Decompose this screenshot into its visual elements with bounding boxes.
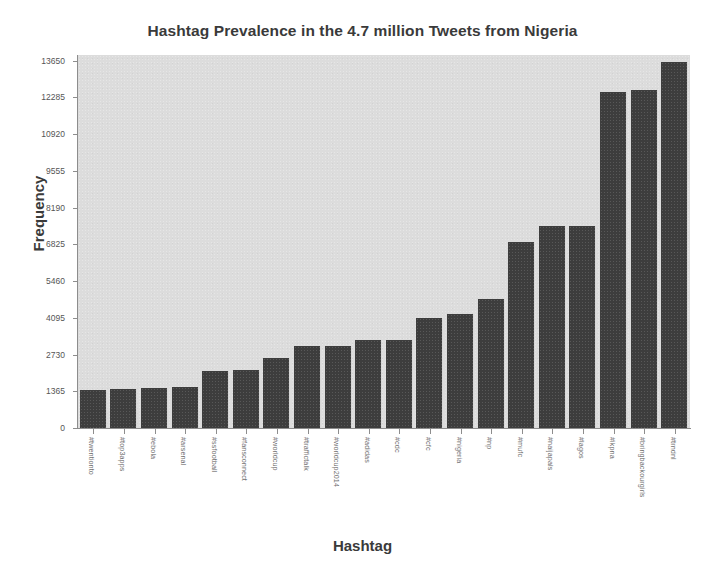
x-tick-mark — [185, 429, 186, 434]
y-tick-mark — [73, 355, 78, 356]
x-tick-label: #ssfootball — [210, 437, 219, 472]
x-tick-label: #worldcup2014 — [332, 437, 341, 487]
x-tick-label: #ebola — [149, 437, 158, 459]
bar — [569, 226, 596, 428]
x-axis-line — [77, 428, 691, 429]
x-tick-label: #trndnl — [669, 437, 678, 460]
y-tick-label: 1365 — [5, 386, 65, 396]
x-tick-mark — [552, 429, 553, 434]
bar — [539, 226, 566, 428]
bar — [447, 314, 474, 428]
y-tick-label: 4095 — [5, 313, 65, 323]
y-tick-mark — [73, 318, 78, 319]
x-tick-label: #worldcup — [271, 437, 280, 471]
y-tick-mark — [73, 244, 78, 245]
bar — [661, 62, 688, 428]
y-tick-label: 8190 — [5, 203, 65, 213]
y-tick-label: 2730 — [5, 350, 65, 360]
bar-series — [78, 55, 690, 428]
bar — [386, 340, 413, 428]
bar — [141, 388, 168, 428]
x-tick-mark — [399, 429, 400, 434]
bar — [325, 346, 352, 428]
x-tick-mark — [461, 429, 462, 434]
x-axis-title: Hashtag — [0, 537, 725, 554]
y-tick-mark — [73, 281, 78, 282]
x-tick-mark — [277, 429, 278, 434]
bar — [478, 299, 505, 428]
x-tick-label: #naijapals — [546, 437, 555, 470]
y-tick-label: 12285 — [5, 92, 65, 102]
x-tick-mark — [491, 429, 492, 434]
x-tick-label: #ikpna — [608, 437, 617, 459]
x-tick-label: #adidas — [363, 437, 372, 463]
x-tick-label: #mufc — [516, 437, 525, 457]
x-tick-label: #traffictalk — [302, 437, 311, 471]
x-tick-label: #arsenal — [179, 437, 188, 465]
x-tick-mark — [614, 429, 615, 434]
y-tick-label: 13650 — [5, 56, 65, 66]
y-tick-label: 9555 — [5, 166, 65, 176]
y-tick-mark — [73, 208, 78, 209]
bar — [416, 318, 443, 428]
x-tick-mark — [522, 429, 523, 434]
y-tick-label: 6825 — [5, 239, 65, 249]
y-tick-label: 10920 — [5, 129, 65, 139]
plot-area — [78, 55, 690, 428]
x-tick-label: #cdc — [393, 437, 402, 453]
x-tick-label: #lagos — [577, 437, 586, 459]
y-axis-line — [77, 55, 78, 429]
chart-title: Hashtag Prevalence in the 4.7 million Tw… — [0, 22, 725, 40]
y-tick-mark — [73, 428, 78, 429]
bar — [172, 387, 199, 428]
bar — [263, 358, 290, 429]
x-tick-mark — [644, 429, 645, 434]
x-tick-label: #cfc — [424, 437, 433, 451]
y-tick-label: 5460 — [5, 276, 65, 286]
x-tick-mark — [583, 429, 584, 434]
y-tick-mark — [73, 171, 78, 172]
bar — [80, 390, 107, 428]
y-tick-mark — [73, 134, 78, 135]
x-tick-mark — [338, 429, 339, 434]
x-tick-mark — [93, 429, 94, 434]
x-tick-mark — [246, 429, 247, 434]
x-tick-label: #nigeria — [455, 437, 464, 463]
chart-figure: Hashtag Prevalence in the 4.7 million Tw… — [0, 0, 725, 580]
x-tick-label: #twentionto — [87, 437, 96, 475]
x-tick-label: #fansconnect — [240, 437, 249, 481]
y-tick-mark — [73, 391, 78, 392]
x-tick-label: #top3apps — [118, 437, 127, 471]
bar — [202, 371, 229, 428]
x-tick-mark — [308, 429, 309, 434]
y-axis-title: Frequency — [30, 84, 47, 344]
x-tick-label: #np — [485, 437, 494, 449]
bar — [631, 90, 658, 428]
x-tick-mark — [369, 429, 370, 434]
x-tick-mark — [430, 429, 431, 434]
bar — [355, 340, 382, 428]
y-tick-label: 0 — [5, 423, 65, 433]
x-tick-mark — [155, 429, 156, 434]
x-tick-mark — [216, 429, 217, 434]
x-tick-label: #bringbackourgirls — [638, 437, 647, 498]
bar — [294, 346, 321, 428]
x-tick-mark — [124, 429, 125, 434]
y-tick-mark — [73, 97, 78, 98]
bar — [600, 92, 627, 428]
bar — [110, 389, 137, 428]
bar — [233, 370, 260, 428]
x-tick-mark — [675, 429, 676, 434]
y-tick-mark — [73, 61, 78, 62]
bar — [508, 242, 535, 428]
